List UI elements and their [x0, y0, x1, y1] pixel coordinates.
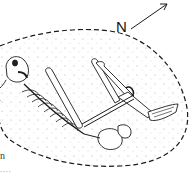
grave-outline: [0, 29, 188, 166]
caption-fragment: n: [0, 151, 5, 161]
north-arrow-label: N: [116, 19, 127, 34]
caption-fragment-dots: ....: [0, 166, 12, 173]
north-arrow-icon: [131, 4, 167, 29]
burial-drawing: [0, 0, 192, 174]
